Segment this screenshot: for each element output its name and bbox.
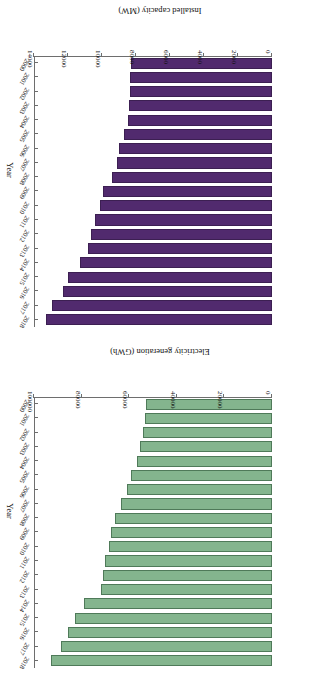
value-axis-tick-label: 6000 — [162, 50, 170, 64]
value-axis-installed-capacity: 02000400060008000100001200014000 — [34, 56, 272, 57]
category-axis-tick-label: 2011 — [18, 556, 31, 571]
bar — [146, 399, 272, 410]
bar-row — [34, 113, 272, 127]
bar — [124, 129, 272, 140]
value-axis-tick-label: 12000 — [60, 50, 68, 68]
bar-row — [34, 270, 272, 284]
category-axis-tick — [34, 62, 38, 63]
bar — [130, 86, 272, 97]
category-axis-tick — [34, 546, 38, 547]
category-axis-tick-label: 2004 — [18, 456, 31, 471]
bar — [103, 570, 272, 581]
category-axis-tick-label: 2014 — [18, 599, 31, 614]
value-axis-electricity-generation: 020000400006000080000100000 — [34, 397, 272, 398]
value-axis-tick-label: 40000 — [169, 391, 177, 409]
bar-row — [34, 298, 272, 312]
y-axis-title-installed-capacity: Year — [5, 163, 15, 179]
bar-row — [34, 313, 272, 327]
bar-row — [34, 611, 272, 625]
bar-row — [34, 468, 272, 482]
bar-row — [34, 397, 272, 411]
category-axis-tick-label: 2007 — [18, 158, 31, 173]
bar-row — [34, 227, 272, 241]
chart-installed-capacity: 02000400060008000100001200014000 2018201… — [0, 0, 320, 341]
bar — [131, 470, 272, 481]
category-axis-tick — [34, 191, 38, 192]
category-axis-tick — [34, 560, 38, 561]
bar — [88, 243, 272, 254]
category-axis-tick — [34, 432, 38, 433]
bar-row — [34, 184, 272, 198]
category-axis-tick-label: 2010 — [18, 542, 31, 557]
value-axis-tick-label: 0 — [264, 50, 272, 54]
category-axis-tick-label: 2008 — [18, 172, 31, 187]
category-axis-tick-label: 2012 — [18, 570, 31, 585]
bar-row — [34, 483, 272, 497]
value-axis-tick-label: 2000 — [230, 50, 238, 64]
category-axis-tick — [34, 276, 38, 277]
bar — [115, 513, 272, 524]
bar — [80, 257, 272, 268]
x-axis-title-installed-capacity: Installed capacity (MW) — [0, 6, 320, 16]
category-axis-tick-label: 2004 — [18, 115, 31, 130]
bar-row — [34, 540, 272, 554]
y-axis-title-electricity-generation: Year — [5, 504, 15, 520]
category-axis-tick-label: 2003 — [18, 101, 31, 116]
category-axis-tick — [34, 205, 38, 206]
value-axis-tick-label: 4000 — [196, 50, 204, 64]
bar — [84, 598, 272, 609]
category-axis-tick-label: 2003 — [18, 442, 31, 457]
bar-row — [34, 411, 272, 425]
category-axis-tick — [34, 305, 38, 306]
value-axis-tick-label: 20000 — [216, 391, 224, 409]
category-axis-tick — [34, 403, 38, 404]
bar — [51, 655, 272, 666]
category-axis-tick-label: 2009 — [18, 527, 31, 542]
category-axis-tick-label: 2005 — [18, 470, 31, 485]
category-axis-tick-label: 2015 — [18, 272, 31, 287]
bar-series-electricity-generation — [34, 397, 272, 668]
category-axis-tick-label: 2013 — [18, 243, 31, 258]
bar-row — [34, 84, 272, 98]
category-axis-tick-label: 2009 — [18, 186, 31, 201]
bar-row — [34, 497, 272, 511]
category-axis-tick — [34, 532, 38, 533]
plot-area-installed-capacity — [34, 56, 272, 327]
bar-row — [34, 525, 272, 539]
bar — [143, 427, 272, 438]
category-axis-tick — [34, 474, 38, 475]
bar-row — [34, 170, 272, 184]
category-axis-tick — [34, 262, 38, 263]
category-axis-tick — [34, 290, 38, 291]
bar — [112, 172, 272, 183]
value-axis-tick-label: 60000 — [121, 391, 129, 409]
bar — [140, 441, 272, 452]
bar — [119, 143, 272, 154]
category-axis-tick-label: 2007 — [18, 499, 31, 514]
category-axis-tick-label: 2013 — [18, 584, 31, 599]
bar — [46, 314, 272, 325]
category-axis-tick — [34, 446, 38, 447]
category-axis-tick — [34, 517, 38, 518]
category-axis-tick-label: 2014 — [18, 258, 31, 273]
category-axis-tick — [34, 248, 38, 249]
bar-row — [34, 142, 272, 156]
category-axis-tick-label: 2002 — [18, 427, 31, 442]
bar — [128, 115, 272, 126]
bar-row — [34, 425, 272, 439]
category-axis-tick — [34, 660, 38, 661]
bar-row — [34, 284, 272, 298]
category-axis-tick — [34, 489, 38, 490]
bar-row — [34, 554, 272, 568]
category-axis-tick — [34, 646, 38, 647]
bar — [63, 286, 272, 297]
bar-row — [34, 127, 272, 141]
bar-row — [34, 582, 272, 596]
category-axis-tick — [34, 617, 38, 618]
plot-area-electricity-generation — [34, 397, 272, 668]
bar-row — [34, 511, 272, 525]
bar — [68, 272, 272, 283]
category-axis-tick-label: 2005 — [18, 129, 31, 144]
x-axis-title-electricity-generation: Electricity generation (GWh) — [0, 347, 320, 357]
category-axis-tick — [34, 631, 38, 632]
